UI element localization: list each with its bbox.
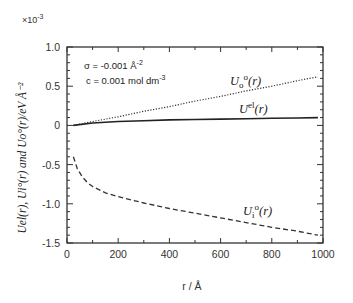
y-tick-label: 0.5 (45, 80, 60, 92)
annotation-concentration: c = 0.001 mol dm-3 (86, 74, 165, 86)
y-tick-label: 1.0 (45, 41, 60, 53)
y-tick-label: -1.5 (42, 237, 60, 249)
x-tick-label: 400 (161, 248, 179, 260)
label-uo: Uoo(r) (230, 72, 261, 90)
x-tick-label: 600 (212, 248, 230, 260)
curves (73, 77, 318, 235)
label-uel: Uel(r) (239, 100, 268, 116)
y-tick-label: -0.5 (42, 159, 60, 171)
chart: 020040060080010001.00.50-0.5-1.0-1.5 ×10… (0, 0, 353, 303)
label-ui: Uio(r) (243, 202, 272, 220)
y-tick-label: 0 (54, 119, 60, 131)
x-tick-label: 800 (263, 248, 281, 260)
axis-ticks: 020040060080010001.00.50-0.5-1.0-1.5 (42, 41, 335, 260)
x-tick-label: 1000 (311, 248, 335, 260)
y-tick-label: -1.0 (42, 198, 60, 210)
x-axis-label: r / Å (182, 280, 201, 292)
x-tick-label: 0 (64, 248, 70, 260)
y-axis-label: Uel(r), Ui°(r) and Uo°(r)/eV Å⁻² (15, 82, 29, 234)
series-ui0r (73, 157, 318, 235)
x-tick-label: 200 (109, 248, 127, 260)
annotation-sigma: σ = -0.001 Å-2 (84, 59, 143, 71)
y-scale-factor: ×10-3 (22, 13, 44, 25)
